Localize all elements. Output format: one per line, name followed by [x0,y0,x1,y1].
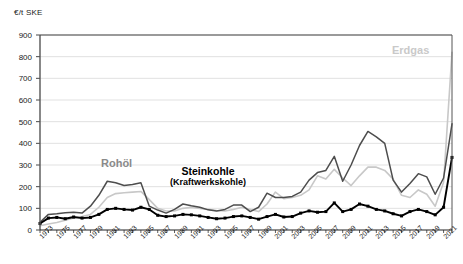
series-label-rohoel: Rohöl [101,157,132,169]
series-label-erdgas: Erdgas [392,44,429,56]
y-tick-label: 300 [6,161,32,170]
y-tick-label: 900 [6,31,32,40]
y-tick-label: 400 [6,139,32,148]
chart-plot-area [0,0,463,264]
chart-container: €/t SKE 0100200300400500600700800900 197… [0,0,463,264]
y-tick-label: 0 [6,226,32,235]
y-tick-label: 200 [6,182,32,191]
series-label-steinkohle-main: Steinkohle [181,165,234,177]
y-tick-label: 800 [6,52,32,61]
y-tick-label: 600 [6,96,32,105]
series-label-steinkohle-sub: (Kraftwerkskohle) [170,177,246,188]
series-label-steinkohle: Steinkohle (Kraftwerkskohle) [170,166,246,188]
y-tick-label: 500 [6,117,32,126]
gridlines [36,35,452,230]
y-tick-label: 100 [6,204,32,213]
axis-lines [40,35,452,230]
y-tick-label: 700 [6,74,32,83]
